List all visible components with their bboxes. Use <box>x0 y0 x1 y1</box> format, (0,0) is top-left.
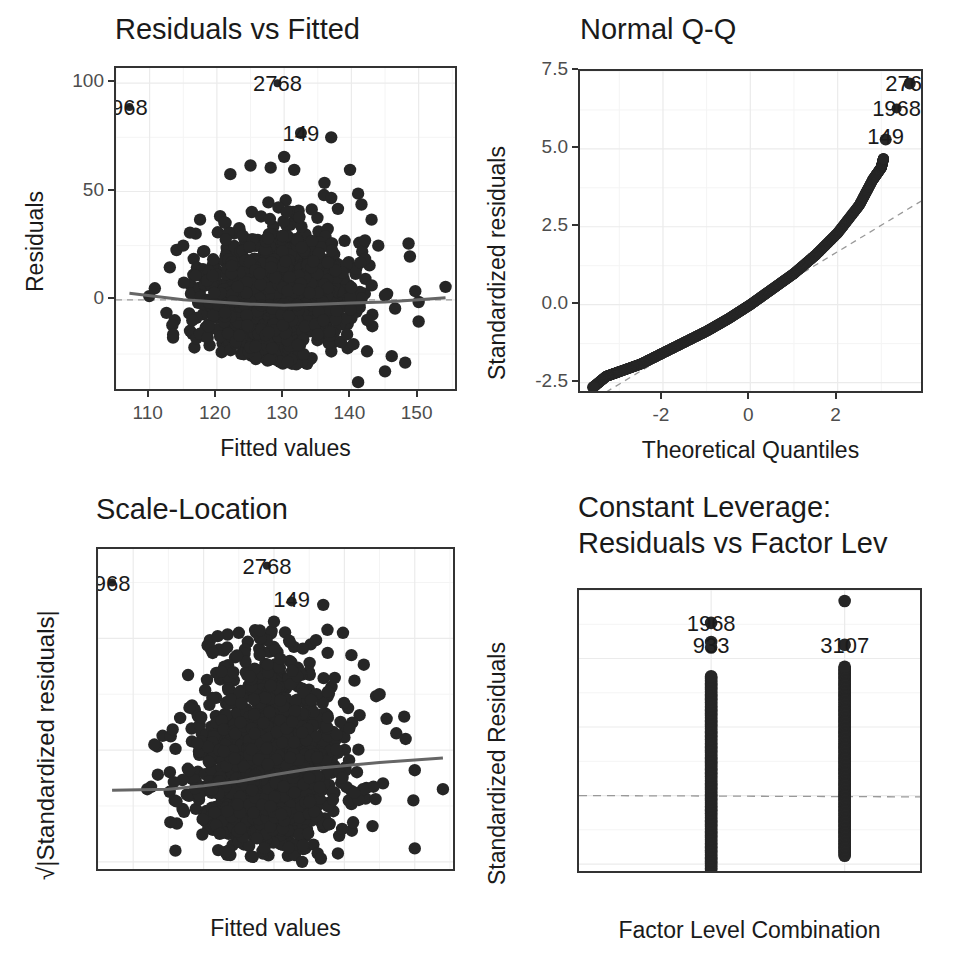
chart-title-line2: Residuals vs Factor Lev <box>578 526 887 560</box>
plot-area: 27681968149 <box>578 69 923 393</box>
y-tick-label: 5.0 <box>508 137 568 157</box>
y-tick-label: 7.5 <box>508 59 568 79</box>
outlier-label: 1968 <box>872 96 921 121</box>
y-axis-label: Standardized Residuals <box>484 642 511 885</box>
x-tick-label: 0 <box>718 405 778 425</box>
y-axis-label: Standardized residuals <box>484 146 511 380</box>
gridlines <box>579 590 922 873</box>
outlier-label: 933 <box>693 633 730 658</box>
qq-plot: 27681968149 <box>580 71 923 393</box>
y-tick-mark <box>572 380 578 382</box>
x-tick-mark <box>660 393 662 399</box>
x-tick-mark <box>835 393 837 399</box>
outlier-label: 2768 <box>885 71 923 96</box>
y-tick-label: -2.5 <box>508 371 568 391</box>
outlier-label: 3107 <box>820 633 869 658</box>
outlier-label: 149 <box>867 124 904 149</box>
chart-title-line1: Constant Leverage: <box>578 490 831 524</box>
y-tick-label: 0.0 <box>508 293 568 313</box>
plot-area: 19689333107 <box>577 588 922 873</box>
panel-normal-qq: Normal Q-Q Standardized residuals 276819… <box>0 0 956 480</box>
y-tick-label: 2.5 <box>508 215 568 235</box>
x-axis-label: Theoretical Quantiles <box>578 437 923 464</box>
y-tick-mark <box>572 146 578 148</box>
strip-plot: 19689333107 <box>579 590 922 873</box>
x-tick-mark <box>747 393 749 399</box>
panel-constant-leverage: Constant Leverage: Residuals vs Factor L… <box>0 480 956 967</box>
y-tick-mark <box>572 68 578 70</box>
x-axis-label: Factor Level Combination <box>577 917 922 944</box>
x-tick-label: 2 <box>806 405 866 425</box>
y-tick-mark <box>572 302 578 304</box>
y-tick-mark <box>572 224 578 226</box>
chart-title: Normal Q-Q <box>580 12 736 46</box>
x-tick-label: -2 <box>631 405 691 425</box>
point-labels: 27681968149 <box>867 71 923 149</box>
point-labels: 19689333107 <box>687 611 869 658</box>
